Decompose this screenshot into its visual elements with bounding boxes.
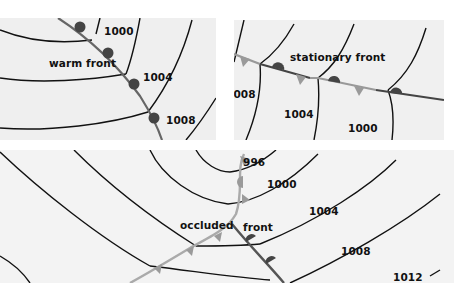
cold-front-symbol	[240, 56, 250, 67]
warm-front-symbol	[149, 113, 160, 124]
isobar-label: 1008	[234, 88, 256, 100]
isobar-label: 1000	[348, 122, 378, 134]
occluded-front-diagram	[0, 150, 454, 283]
isobar-line	[96, 18, 100, 34]
isobar-line	[150, 150, 228, 204]
warm-front-symbol	[246, 234, 256, 242]
isobar-line	[148, 20, 192, 112]
front-label: front	[243, 221, 273, 233]
occluded-front-panel: 996 1000 occluded front 1004 1008 1012	[0, 150, 454, 283]
isobar-label: 1004	[143, 71, 173, 83]
isobar-line	[314, 78, 319, 140]
isobar-line	[150, 266, 270, 280]
isobar-label: 1008	[341, 245, 371, 257]
isobar-line	[388, 90, 393, 140]
isobar-line	[0, 74, 126, 81]
isobar-line	[0, 112, 148, 129]
front-label: stationary front	[290, 51, 385, 63]
stationary-front-diagram	[234, 20, 444, 140]
isobar-label: 1004	[309, 205, 339, 217]
warm-front-symbol	[266, 256, 276, 264]
front-label: warm front	[49, 57, 116, 69]
isobar-line	[260, 160, 396, 244]
warm-front-symbol	[390, 87, 402, 94]
isobar-line	[388, 28, 426, 90]
warm-front-panel: 1000 warm front 1004 1008	[0, 18, 216, 140]
isobar-label: 996	[243, 156, 265, 168]
cold-front-segment	[310, 78, 376, 90]
isobar-line	[260, 24, 294, 64]
warm-front-symbol	[237, 176, 243, 188]
isobar-line	[0, 152, 150, 266]
cold-front-symbol	[242, 194, 250, 204]
isobar-line	[246, 64, 260, 140]
isobar-label: 1000	[267, 178, 297, 190]
isobar-line	[0, 256, 30, 283]
isobar-label: 1004	[284, 108, 314, 120]
warm-front-symbol	[129, 79, 140, 90]
isobar-label: 1012	[393, 271, 423, 283]
isobar-label: 1008	[166, 114, 196, 126]
isobar-line	[196, 150, 230, 172]
isobar-line	[430, 270, 440, 276]
front-label: occluded	[180, 219, 234, 231]
isobar-label: 1000	[104, 25, 134, 37]
warm-front-segment	[260, 64, 310, 78]
warm-front-symbol	[75, 22, 86, 33]
warm-front-symbol	[328, 76, 340, 83]
cold-front-symbol	[154, 264, 162, 274]
warm-front-segment	[376, 90, 444, 100]
stationary-front-panel: stationary front 1008 1004 1000	[234, 20, 444, 140]
isobar-line	[74, 150, 196, 246]
